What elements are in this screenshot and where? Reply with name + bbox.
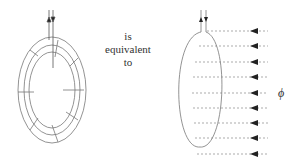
toroid (18, 37, 86, 143)
loop-arrows (199, 17, 208, 22)
diagram-canvas (0, 0, 297, 163)
label-line-3: to (103, 56, 153, 69)
label-line-2: equivalent (103, 43, 153, 56)
flux-arrowheads (250, 28, 258, 157)
equivalence-label: is equivalent to (103, 30, 153, 69)
single-loop (179, 10, 222, 147)
flux-symbol: ϕ (278, 86, 284, 101)
toroid-leads (47, 10, 55, 68)
label-line-1: is (103, 30, 153, 43)
